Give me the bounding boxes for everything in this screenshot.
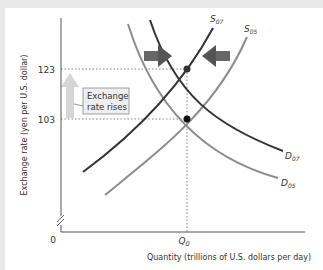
x-tick-q0: Q0 <box>178 236 189 248</box>
y-tick-103: 103 <box>38 115 55 125</box>
up-arrow-icon <box>61 73 79 118</box>
callout-line2: rate rises <box>87 102 127 112</box>
equilibrium-point-2005 <box>184 116 191 123</box>
x-axis-title: Quantity (trillions of U.S. dollars per … <box>147 253 311 262</box>
arrow-left-icon <box>202 45 230 67</box>
label-d07: D07 <box>285 151 300 162</box>
callout-leader <box>74 104 83 106</box>
label-d05: D05 <box>281 178 296 189</box>
chart-svg: Exchange rate rises 123 103 0 Q0 S07 S05… <box>0 0 323 270</box>
y-axis-title: Exchange rate (yen per U.S. dollar) <box>20 55 29 196</box>
equilibrium-point-2007 <box>184 66 191 73</box>
label-s07: S07 <box>210 14 224 25</box>
label-s05: S05 <box>244 24 258 35</box>
y-tick-123: 123 <box>38 65 55 75</box>
origin-label: 0 <box>50 235 56 245</box>
callout-line1: Exchange <box>87 91 129 101</box>
axis-break-icon <box>57 215 65 226</box>
arrow-right-icon <box>144 45 172 67</box>
curve-d07 <box>150 20 283 151</box>
